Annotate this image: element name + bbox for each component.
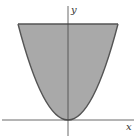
x-axis-label: x — [126, 121, 132, 132]
diagram-canvas: y x — [0, 0, 136, 140]
y-axis-label: y — [70, 4, 77, 15]
